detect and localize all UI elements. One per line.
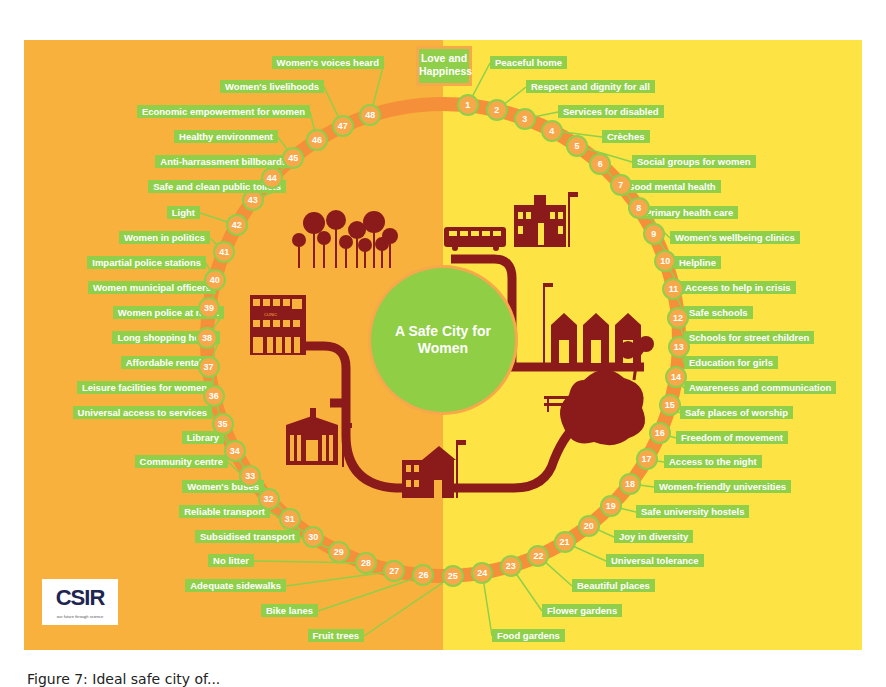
ring-node: 42 [228, 216, 246, 234]
forest-icon [292, 210, 398, 268]
ring-node: 12 [669, 309, 687, 327]
ring-node: 8 [630, 199, 648, 217]
item-label: Healthy environment [174, 130, 278, 143]
item-label: Joy in diversity [614, 530, 693, 543]
item-label: Beautiful places [572, 579, 655, 592]
ring-node: 29 [330, 543, 348, 561]
item-label: Women in politics [119, 231, 210, 244]
item-label: Safe schools [684, 306, 753, 319]
item-label: Light [167, 206, 200, 219]
ring-node: 17 [638, 450, 656, 468]
safe-city-poster: CLINIC [24, 40, 862, 650]
item-label: Leisure facilities for women [77, 381, 212, 394]
item-label: Respect and dignity for all [526, 80, 655, 93]
ring-node: 7 [612, 176, 630, 194]
item-label: Women municipal officers [88, 281, 216, 294]
item-label: Fruit trees [308, 629, 364, 642]
ring-node: 41 [215, 243, 233, 261]
ring-node: 5 [568, 137, 586, 155]
item-label: Universal access to services [73, 406, 212, 419]
ring-node: 4 [543, 122, 561, 140]
clinic-icon: CLINIC [250, 295, 306, 355]
item-label: No litter [208, 554, 254, 567]
ring-node: 20 [580, 517, 598, 535]
ring-node: 1 [459, 96, 477, 114]
item-label: Affordable rentals [121, 356, 212, 369]
item-label: Economic empowerment for women [137, 105, 310, 118]
svg-text:CLINIC: CLINIC [264, 312, 277, 317]
item-label: Bike lanes [261, 604, 318, 617]
ring-node: 25 [444, 567, 462, 585]
ring-node: 40 [206, 271, 224, 289]
ring-node: 45 [284, 149, 302, 167]
ring-node: 9 [645, 225, 663, 243]
ring-node: 35 [214, 415, 232, 433]
item-label: Services for disabled [558, 105, 664, 118]
item-label: Universal tolerance [606, 554, 704, 567]
ring-node: 23 [502, 557, 520, 575]
item-label: Library [182, 431, 224, 444]
item-label: Schools for street children [684, 331, 814, 344]
ring-node: 37 [200, 358, 218, 376]
ring-node: 6 [591, 155, 609, 173]
love-and-happiness-box: Love and Happiness [416, 46, 472, 86]
item-label: Good mental health [622, 180, 721, 193]
center-title: A Safe City for Women [371, 268, 515, 412]
police-station-icon [402, 440, 466, 498]
item-label: Awareness and communication [684, 381, 836, 394]
item-label: Access to the night [664, 455, 762, 468]
item-label: Food gardens [492, 629, 565, 642]
ring-node: 21 [556, 533, 574, 551]
item-label: Education for girls [684, 356, 778, 369]
item-label: Women's livelihoods [220, 80, 324, 93]
ring-node: 32 [260, 490, 278, 508]
csir-logo: CSIR our future through science [42, 579, 118, 625]
item-label: Safe university hostels [636, 505, 749, 518]
ring-node: 2 [488, 101, 506, 119]
ring-node: 18 [621, 475, 639, 493]
item-label: Women's voices heard [272, 56, 384, 69]
item-label: Women-friendly universities [654, 480, 791, 493]
item-label: Flower gardens [542, 604, 622, 617]
item-label: Adequate sidewalks [185, 579, 286, 592]
item-label: Social groups for women [632, 155, 756, 168]
item-label: Impartial police stations [87, 256, 206, 269]
ring-node: 16 [651, 424, 669, 442]
item-label: Subsidised transport [195, 530, 300, 543]
ring-node: 38 [198, 329, 216, 347]
figure-caption: Figure 7: Ideal safe city of... [27, 671, 220, 687]
item-label: Access to help in crisis [680, 281, 796, 294]
item-label: Helpline [674, 256, 721, 269]
ring-node: 28 [357, 554, 375, 572]
bus-icon [444, 227, 506, 251]
item-label: Anti-harrassment billboards [155, 155, 292, 168]
ring-node: 3 [516, 110, 534, 128]
item-label: Safe places of worship [680, 406, 793, 419]
ring-node: 19 [602, 497, 620, 515]
ring-node: 34 [226, 442, 244, 460]
ring-node: 44 [263, 169, 281, 187]
ring-node: 24 [473, 564, 491, 582]
school-icon [514, 192, 578, 247]
item-label: Crèches [602, 130, 650, 143]
item-label: Reliable transport [179, 505, 270, 518]
ring-node: 14 [667, 368, 685, 386]
item-label: Freedom of movement [676, 431, 788, 444]
ring-node: 43 [244, 191, 262, 209]
item-label: Women's wellbeing clinics [670, 231, 800, 244]
item-label: Peaceful home [490, 56, 567, 69]
item-label: Primary health care [640, 206, 738, 219]
ring-node: 10 [656, 252, 674, 270]
item-label: Community centre [135, 455, 228, 468]
ring-node: 36 [205, 387, 223, 405]
